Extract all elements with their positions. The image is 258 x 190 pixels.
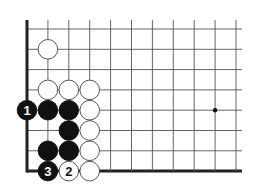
black-stone bbox=[38, 141, 58, 161]
white-stone bbox=[38, 40, 58, 60]
black-stone-move-3: 3 bbox=[38, 161, 58, 181]
black-stone-icon bbox=[59, 121, 79, 141]
move-number-label: 2 bbox=[65, 164, 72, 179]
white-stone-move-2: 2 bbox=[59, 161, 79, 181]
star-points bbox=[213, 108, 217, 112]
white-stone bbox=[38, 80, 58, 100]
white-stone bbox=[80, 80, 100, 100]
white-stone bbox=[59, 80, 79, 100]
black-stone-icon bbox=[59, 141, 79, 161]
white-stone bbox=[80, 100, 100, 120]
black-stone-icon bbox=[38, 141, 58, 161]
white-stone bbox=[80, 141, 100, 161]
go-board: 132 bbox=[0, 0, 258, 190]
move-number-label: 3 bbox=[44, 164, 51, 179]
black-stone-move-1: 1 bbox=[17, 100, 37, 120]
white-stone-icon bbox=[80, 141, 100, 161]
white-stone-icon bbox=[80, 80, 100, 100]
white-stone-icon bbox=[38, 40, 58, 60]
white-stone-icon bbox=[80, 161, 100, 181]
black-stone-icon bbox=[38, 100, 58, 120]
white-stone-icon bbox=[80, 121, 100, 141]
star-point-icon bbox=[213, 108, 217, 112]
move-number-label: 1 bbox=[23, 103, 30, 118]
black-stone bbox=[38, 100, 58, 120]
black-stone-icon bbox=[59, 100, 79, 120]
black-stone bbox=[59, 121, 79, 141]
white-stone-icon bbox=[80, 100, 100, 120]
white-stone bbox=[80, 161, 100, 181]
black-stone bbox=[59, 141, 79, 161]
white-stone-icon bbox=[38, 80, 58, 100]
white-stone bbox=[80, 121, 100, 141]
black-stone bbox=[59, 100, 79, 120]
white-stone-icon bbox=[59, 80, 79, 100]
